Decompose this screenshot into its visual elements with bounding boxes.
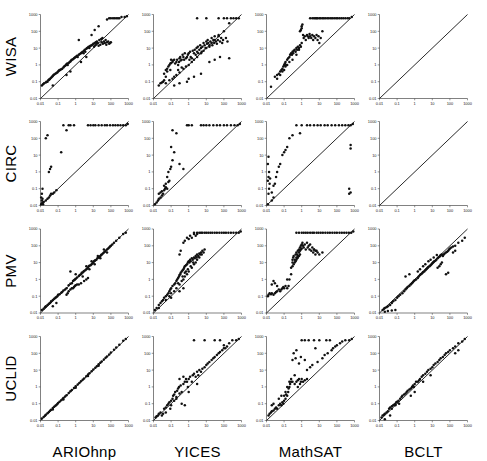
x-tick-label: 10 [204,208,209,213]
data-point [304,359,307,362]
data-point [106,251,109,254]
data-point [276,171,279,174]
data-point [196,383,199,386]
data-point [300,27,303,30]
data-point [235,339,238,342]
data-point [46,134,49,137]
data-point [236,124,239,127]
x-tick-label: 1 [75,315,77,320]
x-tick-label: 100 [221,315,228,320]
data-point [300,378,303,381]
data-point [225,37,228,40]
data-point [178,378,181,381]
data-point [117,124,120,127]
data-point [271,191,274,194]
data-point [310,250,313,253]
data-point [464,237,467,240]
x-tick-label: 1000 [124,101,133,106]
data-point [287,387,290,390]
data-point [175,74,178,77]
data-point [394,299,397,302]
y-tick-label: 1 [261,169,263,174]
y-tick-label: 10 [146,260,151,265]
data-point [125,231,128,234]
data-point [83,377,86,380]
x-tick-label: 0.01 [37,315,45,320]
data-point [316,251,319,254]
data-point [187,386,190,389]
data-point [213,356,216,359]
x-tick-label: 100 [334,423,341,428]
y-tick-label: 10 [33,46,38,51]
data-point [312,251,315,254]
data-point [210,42,213,45]
data-point [197,46,200,49]
data-point [351,338,354,341]
x-tick-label: 10 [91,315,96,320]
data-point [197,52,200,55]
data-point [191,237,194,240]
data-point [167,171,170,174]
data-point [90,34,93,37]
data-point [391,408,394,411]
data-point [62,124,65,127]
data-point [464,338,467,341]
data-point [231,339,234,342]
x-tick-label: 1 [301,315,303,320]
data-point [304,379,307,382]
data-point [424,263,427,266]
x-tick-label: 1000 [350,101,359,106]
data-point [268,182,271,185]
data-point [324,231,327,234]
data-point [162,413,165,416]
data-point [213,59,216,62]
data-point [349,147,352,150]
data-point [187,124,190,127]
data-point [181,275,184,278]
y-tick-label: 1 [35,384,37,389]
data-point [217,39,220,42]
column-label-bclt: BCLT [404,443,442,460]
x-tick-label: 0.01 [376,208,384,213]
data-point [170,146,173,149]
data-point [438,265,441,268]
data-point [184,271,187,274]
data-point [439,357,442,360]
x-tick-label: 1 [414,208,416,213]
data-point [222,39,225,42]
data-point [284,397,287,400]
data-point [100,124,103,127]
x-tick-label: 1000 [463,315,472,320]
x-tick-label: 100 [447,208,454,213]
data-point [309,17,312,20]
x-tick-label: 10 [317,315,322,320]
data-point [447,271,450,274]
data-point [193,373,196,376]
data-point [434,362,437,365]
data-point [221,42,224,45]
data-point [166,176,169,179]
data-point [52,408,55,411]
y-tick-label: 10 [372,260,377,265]
data-point [321,357,324,360]
data-point [217,17,220,20]
y-tick-label: 0.01 [369,96,377,101]
data-point [89,124,92,127]
data-point [118,237,121,240]
data-point [187,268,190,271]
data-point [313,124,316,127]
y-tick-label: 10 [146,46,151,51]
data-point [205,124,208,127]
y-tick-label: 0.01 [256,418,264,423]
data-point [170,297,173,300]
data-point [182,383,185,386]
x-tick-label: 1000 [463,423,472,428]
data-point [319,37,322,40]
y-tick-label: 0.1 [371,79,376,84]
data-point [53,191,56,194]
data-point [441,261,444,264]
data-point [268,171,271,174]
data-point [267,179,270,182]
data-point [288,137,291,140]
data-point [178,163,181,166]
